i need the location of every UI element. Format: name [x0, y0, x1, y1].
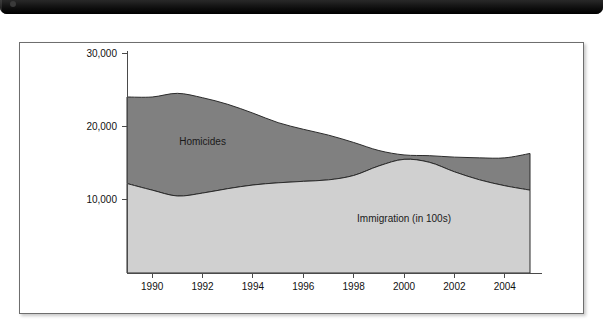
title-bar-dot	[10, 1, 16, 7]
chart-series-group	[127, 93, 530, 273]
series-label-immigration: Immigration (in 100s)	[357, 213, 451, 224]
title-bar-texture	[0, 0, 603, 14]
x-tick-label: 2004	[494, 281, 517, 292]
x-tick-label: 1992	[191, 281, 214, 292]
y-tick-label: 20,000	[86, 121, 117, 132]
stacked-area-chart: 10,00020,00030,0001990199219941996199820…	[20, 43, 585, 315]
x-tick-label: 1996	[292, 281, 315, 292]
x-tick-label: 1998	[343, 281, 366, 292]
x-tick-label: 2000	[393, 281, 416, 292]
figure-frame: 10,00020,00030,0001990199219941996199820…	[19, 42, 584, 314]
window-title-bar	[0, 0, 603, 14]
chart-canvas: 10,00020,00030,0001990199219941996199820…	[20, 43, 585, 315]
x-tick-label: 1990	[141, 281, 164, 292]
x-tick-label: 2002	[443, 281, 466, 292]
y-tick-label: 30,000	[86, 48, 117, 59]
series-label-homicides: Homicides	[179, 136, 226, 147]
y-tick-label: 10,000	[86, 194, 117, 205]
x-tick-label: 1994	[242, 281, 265, 292]
